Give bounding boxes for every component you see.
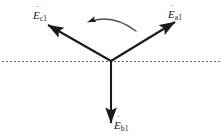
vector-c1-shaft [48,25,111,61]
phasor-diagram: ˙Ea1 ˙Ec1 ˙Eb1 [0,0,222,140]
b1-subscript: b1 [121,124,129,133]
vector-b1-label: ˙Eb1 [114,120,129,133]
vector-a1-shaft [111,22,175,61]
vector-a1-label: ˙Ea1 [168,9,182,22]
b1-dot-accent: ˙ [117,115,120,124]
counter-clockwise-rotation-arrow [88,19,136,31]
a1-subscript: a1 [175,13,183,22]
vector-c1-label: ˙Ec1 [33,10,47,23]
a1-dot-accent: ˙ [171,4,174,13]
c1-subscript: c1 [40,14,48,23]
c1-dot-accent: ˙ [36,5,39,14]
